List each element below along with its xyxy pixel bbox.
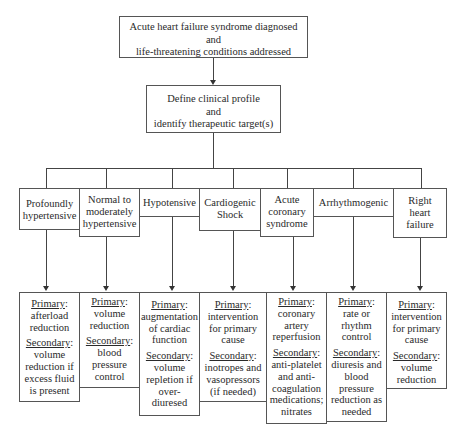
secondary-text: volume [140, 362, 199, 374]
arrow-down-icon [43, 286, 49, 291]
target-box-arrhythmogenic: Primary: rate or rhythm control Secondar… [326, 292, 387, 422]
connector-line [293, 237, 294, 287]
secondary-label: Secondary [273, 347, 317, 358]
secondary-text: excess fluid [20, 373, 79, 385]
secondary-text: reduction if [20, 361, 79, 373]
connector-line [172, 217, 173, 287]
primary-text: afterload [20, 310, 79, 322]
secondary-label: Secondary [26, 337, 70, 348]
secondary-label: Secondary [393, 350, 437, 361]
colon: : [248, 299, 251, 310]
colon: : [377, 347, 380, 358]
primary-label: Primary [338, 296, 372, 307]
connector-line [353, 217, 354, 287]
secondary-text: control [80, 371, 139, 383]
colon: : [317, 347, 320, 358]
primary-label: Primary [31, 298, 65, 309]
primary-label: Primary [215, 299, 249, 310]
profile-box-normal-to-moderately-hypertensive: Normal to moderately hypertensive [79, 188, 140, 237]
primary-text: for primary [387, 323, 446, 335]
colon: : [185, 299, 188, 310]
profile-label: syndrome [261, 218, 313, 230]
arrow-down-icon [417, 286, 423, 291]
profile-line: and [147, 106, 280, 119]
branch-bus-line [46, 168, 422, 169]
connector-line [233, 231, 234, 287]
secondary-text: blood [327, 371, 386, 383]
primary-text: cause [200, 334, 266, 346]
profile-line: identify therapeutic target(s) [147, 118, 280, 131]
secondary-text: coagulation [267, 383, 326, 395]
secondary-text: blood [80, 347, 139, 359]
colon: : [437, 350, 440, 361]
target-box-cardiogenic-shock: Primary: intervention for primary cause … [199, 292, 267, 402]
branch-line [421, 168, 422, 188]
branch-line [353, 168, 354, 188]
primary-text: volume [80, 308, 139, 320]
secondary-text: inotropes and [200, 362, 266, 374]
colon: : [372, 296, 375, 307]
connector-line [420, 238, 421, 287]
profile-label: Acute [261, 194, 313, 206]
primary-text: intervention [200, 311, 266, 323]
colon: : [432, 299, 435, 310]
primary-text: rhythm [327, 320, 386, 332]
colon: : [70, 337, 73, 348]
branch-line [172, 168, 173, 188]
secondary-label: Secondary [146, 350, 190, 361]
branch-line [233, 168, 234, 188]
profile-label: Profoundly [20, 198, 79, 210]
profile-label: Arrhythmogenic [314, 197, 393, 209]
secondary-text: reduction as [327, 394, 386, 406]
colon: : [254, 350, 257, 361]
profile-label: Hypotensive [140, 197, 199, 209]
target-box-acute-coronary-syndrome: Primary: coronary artery reperfusion Sec… [266, 292, 327, 424]
secondary-text: volume [387, 362, 446, 374]
profile-box-right-heart-failure: Right heart failure [393, 188, 447, 238]
profile-label: Right [394, 195, 446, 207]
secondary-text: diuresis and [327, 359, 386, 371]
colon: : [125, 296, 128, 307]
diagnosis-line: life-threatening conditions addressed [120, 46, 307, 59]
primary-text: rate or [327, 308, 386, 320]
profile-label: Normal to [80, 194, 139, 206]
primary-text: artery [267, 320, 326, 332]
colon: : [312, 296, 315, 307]
profile-label: Shock [200, 209, 260, 221]
primary-text: cause [387, 334, 446, 346]
connector-line [213, 58, 214, 81]
primary-text: function [140, 334, 199, 346]
arrow-down-icon [290, 286, 296, 291]
secondary-text: volume [20, 349, 79, 361]
secondary-text: pressure [327, 383, 386, 395]
profile-label: moderately [80, 206, 139, 218]
colon: : [130, 335, 133, 346]
branch-line [46, 168, 47, 188]
target-box-hypotensive: Primary: augmentation of cardiac functio… [139, 292, 200, 416]
profile-box-hypotensive: Hypotensive [139, 188, 200, 217]
arrow-down-icon [169, 286, 175, 291]
profile-box-arrhythmogenic: Arrhythmogenic [313, 188, 394, 217]
clinical-profile-box: Define clinical profile and identify the… [146, 85, 281, 133]
secondary-text: anti-platelet [267, 359, 326, 371]
secondary-text: (if needed) [200, 386, 266, 398]
profile-box-profoundly-hypertensive: Profoundly hypertensive [19, 188, 80, 230]
primary-text: reperfusion [267, 331, 326, 343]
diagnosis-line: and [120, 34, 307, 47]
profile-label: failure [394, 219, 446, 231]
connector-line [46, 230, 47, 287]
arrow-down-icon [350, 286, 356, 291]
secondary-label: Secondary [86, 335, 130, 346]
secondary-text: needed [327, 406, 386, 418]
primary-text: coronary [267, 308, 326, 320]
secondary-text: over- [140, 386, 199, 398]
colon: : [65, 298, 68, 309]
secondary-label: Secondary [333, 347, 377, 358]
primary-text: augmentation [140, 311, 199, 323]
primary-label: Primary [398, 299, 432, 310]
target-box-normal-to-moderately-hypertensive: Primary: volume reduction Secondary: blo… [79, 292, 140, 388]
profile-label: hypertensive [20, 210, 79, 222]
secondary-text: reduction [387, 374, 446, 386]
profile-label: Cardiogenic [200, 197, 260, 209]
profile-box-cardiogenic-shock: Cardiogenic Shock [199, 188, 261, 231]
